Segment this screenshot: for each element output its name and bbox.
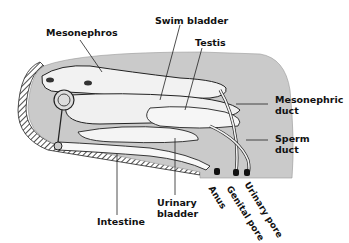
urinary-pore-opening (244, 169, 250, 176)
label-line: Urinary (157, 197, 198, 208)
label-testis: Testis (195, 37, 226, 48)
label-line: bladder (157, 208, 198, 219)
genital-pore-opening (233, 169, 239, 176)
label-line: Mesonephric (275, 94, 343, 105)
label-mesonephric-duct: Mesonephric duct (275, 94, 343, 116)
label-line: duct (275, 105, 343, 116)
label-line: duct (275, 144, 310, 155)
label-intestine: Intestine (97, 216, 145, 227)
label-sperm-duct: Sperm duct (275, 133, 310, 155)
anus-opening (214, 168, 220, 175)
label-urinary-bladder: Urinary bladder (157, 197, 198, 219)
label-mesonephros: Mesonephros (46, 27, 118, 38)
label-line: Sperm (275, 133, 310, 144)
label-swim-bladder: Swim bladder (155, 15, 228, 26)
vertebra (54, 90, 74, 110)
